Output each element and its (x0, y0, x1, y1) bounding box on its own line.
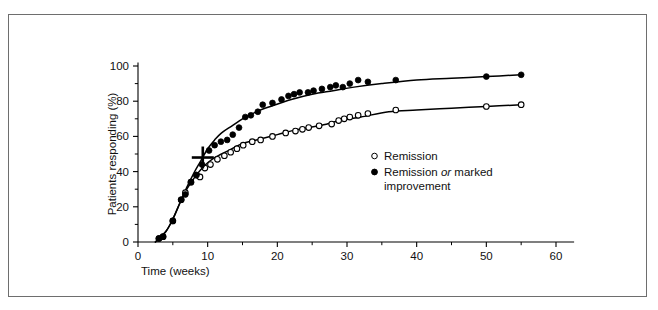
data-point-series-1 (286, 93, 292, 99)
data-point-series-1 (170, 218, 176, 224)
data-point-series-0 (347, 114, 353, 120)
data-point-series-1 (333, 82, 339, 88)
data-point-series-0 (484, 104, 490, 110)
x-tick-label: 0 (135, 250, 141, 262)
data-point-series-1 (340, 84, 346, 90)
data-point-series-1 (270, 100, 276, 106)
figure-root: 0102030405060020406080100 Patients respo… (0, 0, 658, 310)
x-tick-label: 10 (201, 250, 214, 262)
x-tick-label: 50 (480, 250, 493, 262)
data-point-series-1 (206, 148, 212, 154)
data-point-series-1 (327, 84, 333, 90)
data-point-series-1 (279, 97, 285, 103)
data-point-series-1 (297, 90, 303, 96)
legend-label-part-marked: marked (454, 166, 492, 178)
data-point-series-1 (311, 88, 317, 94)
data-point-series-0 (228, 149, 234, 155)
data-point-series-0 (306, 125, 312, 131)
y-tick-label: 40 (116, 166, 129, 178)
data-point-series-1 (347, 81, 353, 87)
y-tick-label: 0 (123, 236, 129, 248)
legend-label-part-remission: Remission (384, 166, 438, 178)
data-point-series-0 (270, 134, 276, 140)
data-point-series-0 (234, 146, 240, 152)
data-point-series-1 (160, 234, 166, 240)
data-point-series-0 (222, 153, 228, 159)
data-point-series-1 (194, 172, 200, 178)
data-point-series-0 (393, 107, 399, 113)
x-tick-label: 40 (410, 250, 423, 262)
chart-legend: Remission Remission or marked improvemen… (372, 150, 493, 192)
data-point-series-1 (319, 86, 325, 92)
data-point-series-1 (365, 79, 371, 85)
data-point-series-0 (215, 156, 221, 162)
data-point-series-1 (236, 125, 242, 131)
y-tick-label: 60 (116, 130, 129, 142)
data-point-series-0 (208, 162, 214, 168)
data-point-series-0 (240, 142, 246, 148)
x-tick-label: 60 (550, 250, 563, 262)
data-point-series-0 (355, 112, 361, 118)
legend-label-remission-or-improvement: Remission or marked (384, 166, 493, 178)
data-point-series-0 (518, 102, 524, 108)
data-point-series-1 (291, 91, 297, 97)
data-point-series-0 (329, 121, 335, 127)
y-tick-label: 100 (110, 60, 129, 72)
data-point-series-0 (249, 139, 255, 145)
data-point-series-1 (212, 142, 218, 148)
data-point-series-0 (316, 123, 322, 129)
data-point-series-1 (248, 112, 254, 118)
data-point-series-1 (483, 74, 489, 80)
data-point-series-0 (336, 118, 342, 124)
chart-canvas: 0102030405060020406080100 Patients respo… (0, 0, 658, 310)
data-point-series-1 (393, 77, 399, 83)
x-axis-title: Time (weeks) (141, 265, 210, 277)
data-point-series-0 (365, 111, 371, 117)
data-point-series-1 (242, 114, 248, 120)
data-point-series-1 (355, 77, 361, 83)
data-point-series-0 (258, 137, 264, 143)
data-point-series-0 (283, 130, 289, 136)
data-point-series-1 (255, 109, 261, 115)
data-point-series-1 (188, 179, 194, 185)
data-point-series-0 (341, 116, 347, 122)
legend-label-remission: Remission (384, 150, 438, 162)
data-point-series-1 (224, 137, 230, 143)
y-axis-title: Patients responding (%) (106, 92, 118, 215)
legend-marker-remission-or-improvement-icon (372, 169, 378, 175)
data-point-series-1 (218, 139, 224, 145)
data-point-series-1 (260, 102, 266, 108)
data-point-series-0 (300, 127, 306, 133)
x-tick-label: 20 (271, 250, 284, 262)
data-point-series-0 (293, 128, 299, 134)
x-tick-label: 30 (341, 250, 354, 262)
data-point-series-1 (182, 192, 188, 198)
legend-label-improvement: improvement (384, 180, 451, 192)
data-point-series-1 (178, 197, 184, 203)
y-tick-label: 80 (116, 95, 129, 107)
data-point-series-1 (305, 90, 311, 96)
y-tick-label: 20 (116, 201, 129, 213)
data-point-series-1 (230, 132, 236, 138)
legend-marker-remission-icon (372, 153, 378, 159)
data-point-series-1 (518, 72, 524, 78)
